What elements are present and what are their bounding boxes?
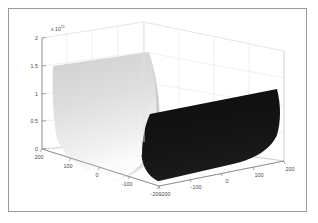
x-tick-label: 200: [35, 154, 44, 160]
z-tick-label: 0.5: [31, 118, 39, 124]
svg-text:x 1011: x 1011: [51, 25, 65, 32]
z-tick-label: 1.5: [31, 63, 39, 69]
figure-frame: 2 1.5 1 0.5 0 200 100 0 -100 -200: [8, 8, 307, 212]
exponent-value: 11: [61, 25, 65, 29]
x-tick-label: 0: [96, 172, 99, 178]
y-tick-label: 200: [286, 166, 295, 172]
z-axis-tick-labels: 2 1.5 1 0.5 0: [31, 35, 39, 152]
axes-3d-surface-plot: 2 1.5 1 0.5 0 200 100 0 -100 -200: [9, 9, 308, 213]
z-tick-label: 1: [35, 91, 38, 97]
y-tick-label: 0: [226, 178, 229, 184]
y-tick-label: 100: [255, 172, 264, 178]
z-axis-exponent-label: x 1011: [51, 25, 65, 32]
y-tick-label: -200: [160, 191, 171, 197]
z-tick-label: 2: [35, 35, 38, 41]
z-tick-label: 0: [35, 146, 38, 152]
x-tick-label: -100: [122, 181, 133, 187]
exponent-prefix: x 10: [51, 26, 61, 32]
y-tick-label: -100: [191, 184, 202, 190]
surface-plot-canvas: 2 1.5 1 0.5 0 200 100 0 -100 -200: [9, 9, 308, 213]
x-tick-label: 100: [64, 163, 73, 169]
matlab-figure-window: 2 1.5 1 0.5 0 200 100 0 -100 -200: [0, 0, 318, 223]
